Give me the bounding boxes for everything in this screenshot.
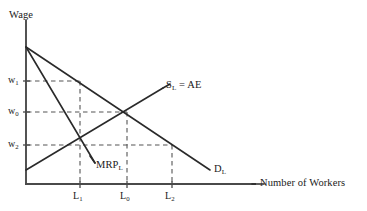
supply-curve-label: SL = AE bbox=[166, 80, 201, 91]
y-tick-label-w1-sub: 1 bbox=[15, 79, 18, 86]
supply-curve-sl-ae bbox=[26, 88, 163, 170]
x-tick-label-l2: L2 bbox=[165, 191, 175, 201]
x-tick-label-l1-sub: 1 bbox=[79, 195, 82, 202]
y-tick-label-w2-sub: 2 bbox=[15, 143, 18, 150]
x-axis-title: Number of Workers bbox=[260, 178, 345, 189]
y-tick-label-w1: w1 bbox=[8, 75, 19, 85]
mrp-curve-mrpl bbox=[26, 47, 95, 163]
x-tick-label-l1: L1 bbox=[73, 191, 83, 201]
mrp-curve-label: MRPL bbox=[96, 160, 123, 171]
demand-curve-label: DL bbox=[214, 164, 226, 175]
x-tick-label-l0: L0 bbox=[120, 191, 130, 201]
y-tick-label-w2: w2 bbox=[8, 139, 19, 149]
demand-curve-dl bbox=[26, 47, 210, 170]
y-tick-label-w0: w0 bbox=[8, 106, 19, 116]
supply-curve-label-sub: L bbox=[172, 84, 176, 92]
y-axis-title-text: Wage bbox=[9, 9, 33, 20]
demand-curve-label-base: D bbox=[214, 163, 222, 174]
y-axis-title: Wage bbox=[9, 10, 33, 21]
x-tick-label-l0-sub: 0 bbox=[126, 195, 129, 202]
y-tick-label-w0-sub: 0 bbox=[15, 110, 18, 117]
x-tick-label-l2-sub: 2 bbox=[171, 195, 174, 202]
labour-market-diagram: Wage Number of Workers w1 w0 w2 L1 L0 L2… bbox=[0, 0, 367, 211]
mrp-label-leader bbox=[90, 156, 95, 163]
supply-curve-label-tail: = AE bbox=[176, 79, 201, 90]
x-axis-title-text: Number of Workers bbox=[260, 177, 345, 188]
demand-curve-label-sub: L bbox=[222, 168, 226, 176]
mrp-curve-label-sub: L bbox=[118, 164, 122, 172]
mrp-curve-label-base: MRP bbox=[96, 159, 118, 170]
